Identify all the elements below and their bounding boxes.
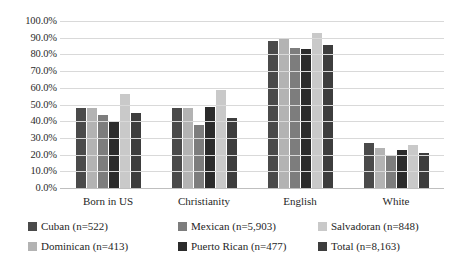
bar	[323, 45, 333, 188]
y-axis-tick-label: 100.0%	[25, 16, 57, 27]
legend-label: Total (n=8,163)	[331, 241, 400, 252]
legend-swatch	[28, 242, 37, 251]
gridline	[60, 171, 444, 172]
y-axis-tick-label: 40.0%	[30, 116, 57, 127]
bar	[408, 145, 418, 188]
bar	[279, 38, 289, 188]
legend-label: Mexican (n=5,903)	[191, 221, 276, 232]
legend-item: Salvadoran (n=848)	[318, 216, 458, 236]
gridline	[60, 54, 444, 55]
x-axis-category-label: Christianity	[156, 191, 252, 211]
legend-swatch	[178, 242, 187, 251]
y-axis-tick-label: 20.0%	[30, 149, 57, 160]
plot-area	[60, 21, 444, 188]
bar	[98, 115, 108, 188]
x-axis-category-label: White	[348, 191, 444, 211]
bar	[268, 41, 278, 188]
y-axis-tick-label: 30.0%	[30, 133, 57, 144]
bar	[312, 33, 322, 188]
bar	[183, 108, 193, 188]
bar	[172, 108, 182, 188]
plot-region: 0.0%10.0%20.0%30.0%40.0%50.0%60.0%70.0%8…	[0, 0, 458, 196]
bar	[290, 48, 300, 188]
bar	[120, 94, 130, 188]
gridline	[60, 121, 444, 122]
legend-label: Cuban (n=522)	[41, 221, 108, 232]
bar	[76, 108, 86, 188]
y-axis-tick-label: 80.0%	[30, 49, 57, 60]
legend-swatch	[178, 222, 187, 231]
y-axis-tick-label: 70.0%	[30, 66, 57, 77]
x-axis-category-label: English	[252, 191, 348, 211]
x-axis-category-label: Born in US	[60, 191, 156, 211]
legend-label: Dominican (n=413)	[41, 241, 128, 252]
gridline	[60, 105, 444, 106]
y-axis-tick-label: 50.0%	[30, 99, 57, 110]
gridline	[60, 38, 444, 39]
y-axis: 0.0%10.0%20.0%30.0%40.0%50.0%60.0%70.0%8…	[0, 0, 60, 196]
legend-item: Mexican (n=5,903)	[178, 216, 318, 236]
gridline	[60, 88, 444, 89]
y-axis-tick-label: 0.0%	[36, 183, 57, 194]
y-axis-tick-label: 60.0%	[30, 83, 57, 94]
bar-chart: 0.0%10.0%20.0%30.0%40.0%50.0%60.0%70.0%8…	[0, 0, 458, 273]
legend-swatch	[318, 242, 327, 251]
gridline	[60, 138, 444, 139]
gridline	[60, 21, 444, 22]
chart-legend: Cuban (n=522)Mexican (n=5,903)Salvadoran…	[0, 216, 458, 266]
axis-baseline	[60, 188, 444, 189]
bar	[87, 108, 97, 188]
y-axis-tick-label: 10.0%	[30, 166, 57, 177]
legend-item: Puerto Rican (n=477)	[178, 236, 318, 256]
gridline	[60, 71, 444, 72]
bar	[194, 125, 204, 188]
legend-swatch	[28, 222, 37, 231]
bar	[131, 113, 141, 188]
x-axis-category-labels: Born in USChristianityEnglishWhite	[60, 191, 444, 211]
legend-swatch	[318, 222, 327, 231]
bar	[227, 118, 237, 188]
y-axis-tick-label: 90.0%	[30, 32, 57, 43]
legend-label: Salvadoran (n=848)	[331, 221, 419, 232]
bar	[364, 143, 374, 188]
legend-item: Total (n=8,163)	[318, 236, 458, 256]
legend-label: Puerto Rican (n=477)	[191, 241, 286, 252]
legend-item: Cuban (n=522)	[28, 216, 178, 236]
legend-item: Dominican (n=413)	[28, 236, 178, 256]
gridline	[60, 155, 444, 156]
bar	[205, 107, 215, 188]
